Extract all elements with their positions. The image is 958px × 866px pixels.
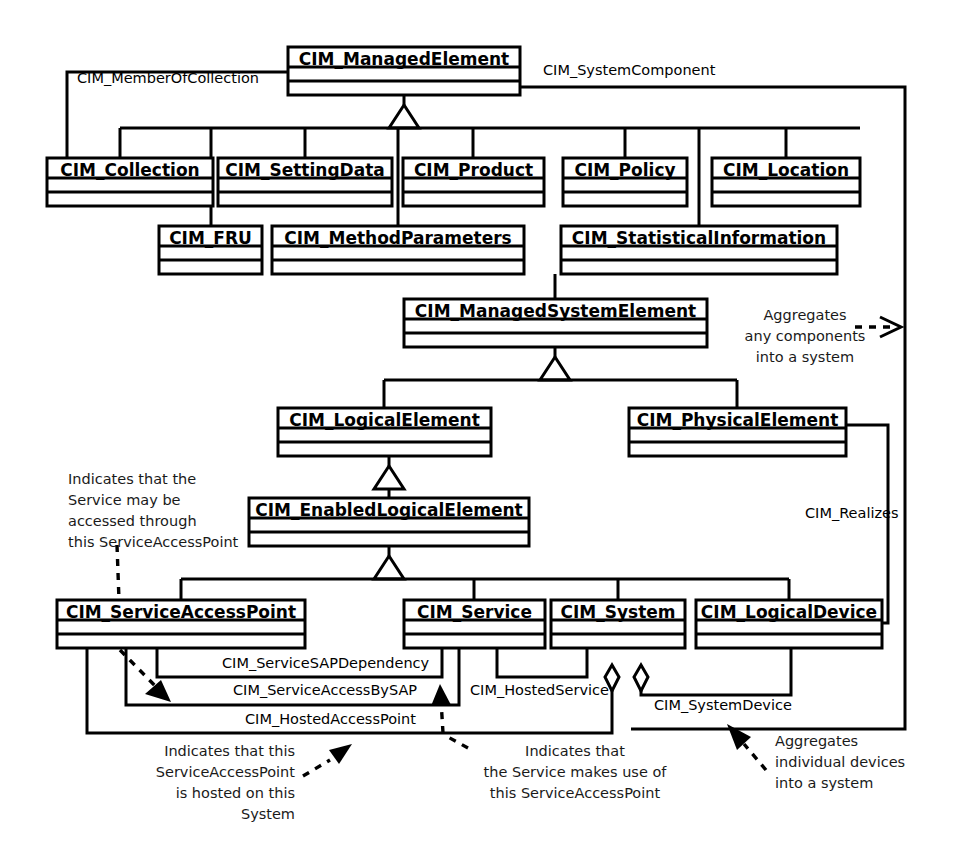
association-labels: CIM_MemberOfCollectionCIM_SystemComponen…: [77, 62, 899, 727]
note-line: Service may be: [68, 492, 181, 508]
note-line: accessed through: [68, 513, 197, 529]
arrowhead-icon: [329, 744, 352, 764]
association-label-service_sap_dependency: CIM_ServiceSAPDependency: [222, 655, 430, 671]
note-service-makes-use-of: Indicates thatthe Service makes use ofth…: [484, 743, 668, 801]
note-line: is hosted on this: [176, 785, 295, 801]
leader-aggregates-individual-devices: [727, 724, 766, 770]
leader-service-makes-use-of: [431, 684, 468, 748]
note-line: this ServiceAccessPoint: [68, 534, 239, 550]
note-texts: Indicates that theService may beaccessed…: [68, 307, 905, 822]
note-line: Indicates that the: [68, 471, 196, 487]
arrowhead-icon: [145, 680, 171, 702]
association-label-system_component: CIM_SystemComponent: [543, 62, 716, 78]
note-line: Aggregates: [763, 307, 846, 323]
note-service-accessed-through: Indicates that theService may beaccessed…: [68, 471, 239, 550]
uml-class-diagram: CIM_ManagedElementCIM_CollectionCIM_Sett…: [0, 0, 958, 866]
note-line: Indicates that: [525, 743, 625, 759]
leader-sap-hosted-on-system: [303, 744, 352, 776]
note-line: the Service makes use of: [484, 764, 668, 780]
association-label-hosted_access_point: CIM_HostedAccessPoint: [245, 711, 416, 727]
note-line: any components: [745, 328, 866, 344]
association-label-service_access_by_sap: CIM_ServiceAccessBySAP: [233, 682, 417, 698]
association-label-realizes: CIM_Realizes: [805, 505, 899, 521]
note-line: into a system: [775, 775, 873, 791]
label-layer: CIM_MemberOfCollectionCIM_SystemComponen…: [0, 0, 958, 866]
note-line: Aggregates: [775, 733, 858, 749]
note-line: Indicates that this: [164, 743, 295, 759]
note-line: this ServiceAccessPoint: [490, 785, 661, 801]
note-aggregates-individual-devices: Aggregatesindividual devicesinto a syste…: [775, 733, 905, 791]
note-line: individual devices: [775, 754, 905, 770]
association-label-member_of_collection: CIM_MemberOfCollection: [77, 70, 259, 86]
note-line: ServiceAccessPoint: [156, 764, 296, 780]
association-label-hosted_service: CIM_HostedService: [470, 682, 609, 698]
association-label-system_device: CIM_SystemDevice: [654, 697, 792, 713]
note-sap-hosted-on-system: Indicates that thisServiceAccessPointis …: [156, 743, 296, 822]
note-line: System: [241, 806, 295, 822]
leader-service-accessed-through: [117, 545, 171, 702]
note-aggregates-any-components: Aggregatesany componentsinto a system: [745, 307, 866, 365]
arrowhead-icon: [431, 684, 451, 706]
note-line: into a system: [756, 349, 854, 365]
